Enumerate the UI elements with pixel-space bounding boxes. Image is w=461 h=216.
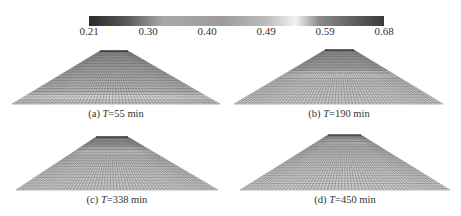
caption-label: (a)	[88, 108, 102, 119]
caption-value: =190 min	[329, 108, 370, 119]
mesh-surface	[0, 0, 461, 216]
caption-c: (c) T=338 min	[87, 194, 148, 205]
caption-value: =450 min	[335, 194, 376, 205]
caption-value: =55 min	[108, 108, 143, 119]
caption-label: (c)	[87, 194, 101, 205]
caption-a: (a) T=55 min	[88, 108, 144, 119]
mesh-panel-d	[0, 0, 461, 216]
caption-d: (d) T=450 min	[314, 194, 375, 205]
caption-value: =338 min	[107, 194, 148, 205]
caption-b: (b) T=190 min	[308, 108, 369, 119]
caption-label: (b)	[308, 108, 323, 119]
caption-label: (d)	[314, 194, 329, 205]
